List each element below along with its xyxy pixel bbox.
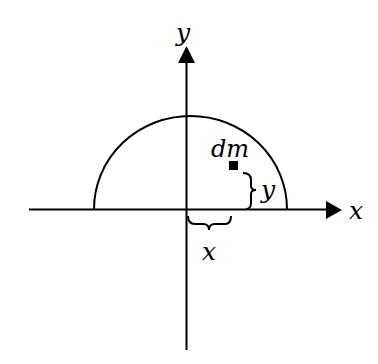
y-axis-label: y <box>175 18 191 47</box>
semicircle-arc <box>94 116 287 209</box>
mass-element-label: dm <box>211 135 249 163</box>
y-axis-arrow-icon <box>178 46 195 63</box>
horizontal-brace-label: x <box>202 237 216 266</box>
horizontal-brace <box>188 216 231 230</box>
x-axis-arrow-icon <box>326 201 342 219</box>
vertical-brace <box>243 173 256 209</box>
semicircle-diagram: y x dm y x <box>0 0 378 364</box>
vertical-brace-label: y <box>260 175 276 204</box>
x-axis-label: x <box>349 196 363 225</box>
